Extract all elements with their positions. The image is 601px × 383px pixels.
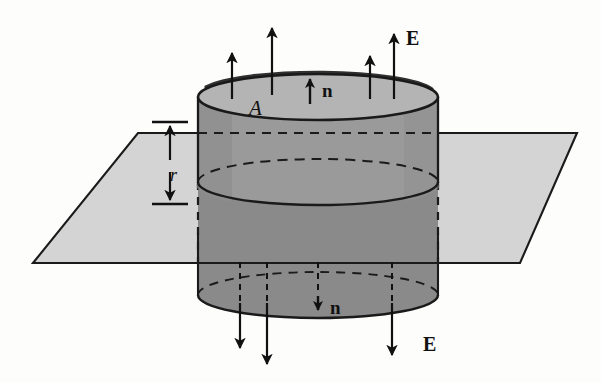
normal-label-bottom: n <box>330 298 341 317</box>
physics-diagram-gaussian-cylinder: A n E r n E <box>0 0 601 383</box>
radius-label: r <box>170 166 177 184</box>
field-label-bottom: E <box>423 334 436 354</box>
field-label-top: E <box>406 28 419 48</box>
diagram-canvas <box>0 0 601 383</box>
area-label: A <box>249 98 262 119</box>
normal-label-top: n <box>322 81 333 100</box>
top-cap-surface <box>198 74 438 120</box>
